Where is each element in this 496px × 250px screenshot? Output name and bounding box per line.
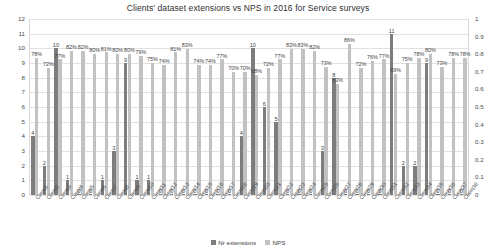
bar-value-label: 1 [135, 174, 138, 180]
bar-nps[interactable]: 83% [290, 49, 293, 195]
bar-category: 074% [203, 19, 215, 195]
chart-container: Clients' dataset extensions vs NPS in 20… [0, 0, 496, 250]
bar-value-label: 10 [250, 42, 256, 48]
bar-category: 672% [261, 19, 273, 195]
bar-nps[interactable]: 72% [267, 68, 270, 195]
legend-label: NPS [273, 239, 286, 246]
y-axis-right-tick-label: 0.8 [475, 51, 496, 57]
bar-nps[interactable]: 78% [417, 58, 420, 195]
bar-nr-extensions[interactable]: 9 [425, 63, 428, 195]
bar-nps[interactable]: 72% [47, 68, 50, 195]
bar-nps[interactable]: 73% [324, 67, 327, 195]
y-axis-left-tick-label: 4 [3, 133, 25, 139]
y-axis-left-tick-label: 2 [3, 163, 25, 169]
bar-nps[interactable]: 75% [151, 63, 154, 195]
bar-category: 980% [122, 19, 134, 195]
bar-category: 478% [29, 19, 41, 195]
bar-nr-extensions[interactable]: 10 [54, 48, 57, 195]
bar-nps[interactable]: 78% [463, 58, 466, 195]
bar-nps[interactable]: 76% [371, 61, 374, 195]
bar-category: 070% [226, 19, 238, 195]
bar-nps[interactable]: 81% [174, 52, 177, 195]
bar-category: 078% [446, 19, 458, 195]
y-axis-left-tick-label: 5 [3, 119, 25, 125]
legend-item-nps[interactable]: NPS [265, 239, 285, 246]
bar-value-label: 3 [112, 145, 115, 151]
bar-nps[interactable]: 81% [105, 52, 108, 195]
bar-category: 073% [434, 19, 446, 195]
bar-nps[interactable]: 80% [116, 54, 119, 195]
bar-nps[interactable]: 70% [232, 72, 235, 195]
legend-item-nr-extensions[interactable]: Nr extensions [211, 239, 256, 246]
y-axis-right-tick-label: 0 [475, 192, 496, 198]
bar-nps[interactable]: 80% [429, 54, 432, 195]
bar-nps[interactable]: 74% [209, 65, 212, 195]
bar-nps[interactable]: 80% [93, 54, 96, 195]
y-axis-right-tick-label: 0.9 [475, 34, 496, 40]
bar-nr-extensions[interactable]: 8 [332, 78, 335, 195]
bar-nps[interactable]: 83% [301, 49, 304, 195]
bar-nps[interactable]: 72% [359, 68, 362, 195]
bar-nps[interactable]: 82% [70, 51, 73, 195]
bar-nps[interactable]: 73% [440, 67, 443, 195]
bar-value-label: 2 [413, 160, 416, 166]
bar-nps[interactable]: 83% [186, 49, 189, 195]
bar-category: 077% [214, 19, 226, 195]
bar-nps[interactable]: 79% [139, 56, 142, 195]
bar-nps[interactable]: 74% [197, 65, 200, 195]
bar-category: 083% [295, 19, 307, 195]
bar-category: 1169% [388, 19, 400, 195]
bar-nps[interactable]: 75% [406, 63, 409, 195]
bar-value-label: 6 [263, 101, 266, 107]
bar-nps[interactable]: 63% [336, 84, 339, 195]
bar-nr-extensions[interactable]: 11 [390, 34, 393, 195]
bar-value-label: 4 [240, 130, 243, 136]
bar-category: 072% [353, 19, 365, 195]
y-axis-left-tick-label: 12 [3, 16, 25, 22]
bar-nps[interactable]: 74% [162, 65, 165, 195]
bar-category: 179% [133, 19, 145, 195]
chart-legend: Nr extensions NPS [0, 239, 496, 246]
bar-value-label: 1 [66, 174, 69, 180]
bar-category: 181% [98, 19, 110, 195]
y-axis-left-tick-label: 9 [3, 60, 25, 66]
y-axis-right-tick-label: 0.2 [475, 157, 496, 163]
bar-category: 278% [411, 19, 423, 195]
bar-nr-extensions[interactable]: 9 [124, 63, 127, 195]
chart-title: Clients' dataset extensions vs NPS in 20… [0, 3, 496, 13]
bar-nps[interactable]: 80% [128, 54, 131, 195]
bar-nps[interactable]: 77% [382, 59, 385, 195]
bar-value-label: 3 [321, 145, 324, 151]
bar-category: 074% [191, 19, 203, 195]
bar-nps[interactable]: 77% [278, 59, 281, 195]
y-axis-left-tick-label: 7 [3, 89, 25, 95]
bar-value-label: 9 [425, 57, 428, 63]
bar-group: 478%272%1077%182%082%080%181%380%980%179… [29, 19, 469, 195]
plot-area: 478%272%1077%182%082%080%181%380%980%179… [29, 19, 469, 195]
bar-value-label: 9 [124, 57, 127, 63]
bar-nps[interactable]: 78% [35, 58, 38, 195]
bar-nps[interactable]: 68% [255, 75, 258, 195]
y-axis-left-tick-label: 11 [3, 31, 25, 37]
bar-category: 080% [87, 19, 99, 195]
bar-nps[interactable]: 86% [348, 44, 351, 195]
bar-category: 077% [376, 19, 388, 195]
bar-category: 078% [457, 19, 469, 195]
y-axis-left-tick-label: 6 [3, 104, 25, 110]
y-axis-right-tick-label: 0.6 [475, 86, 496, 92]
bar-nps[interactable]: 82% [313, 51, 316, 195]
bar-nps[interactable]: 78% [452, 58, 455, 195]
bar-nps[interactable]: 82% [81, 51, 84, 195]
bar-nr-extensions[interactable]: 10 [251, 48, 254, 195]
bar-nps[interactable]: 70% [243, 72, 246, 195]
y-axis-right-tick-label: 0.4 [475, 122, 496, 128]
bar-nps[interactable]: 69% [394, 74, 397, 195]
bar-category: 380% [110, 19, 122, 195]
bar-nps[interactable]: 77% [220, 59, 223, 195]
y-axis-right-tick-label: 0.3 [475, 139, 496, 145]
bar-nr-extensions[interactable]: 4 [31, 136, 34, 195]
bar-category: 373% [318, 19, 330, 195]
bar-nps[interactable]: 77% [58, 59, 61, 195]
bar-category: 083% [284, 19, 296, 195]
bar-category: 086% [342, 19, 354, 195]
